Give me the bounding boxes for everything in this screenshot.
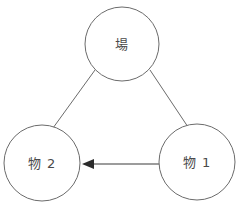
su-field-diagram: 場 物 2 物 1 — [0, 0, 238, 208]
edge-field-to-substance-1 — [150, 70, 188, 127]
edge-field-to-substance-2 — [53, 70, 95, 128]
node-substance-1-label: 物 1 — [183, 155, 211, 170]
node-substance-2-label: 物 2 — [28, 156, 56, 171]
arrow-head-icon — [82, 159, 94, 169]
su-field-canvas: 場 物 2 物 1 — [0, 0, 238, 208]
node-field-label: 場 — [115, 37, 129, 52]
